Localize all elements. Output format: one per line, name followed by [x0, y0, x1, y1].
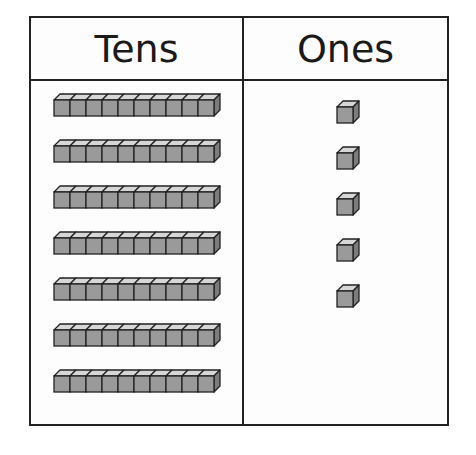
tens-rod	[53, 185, 221, 213]
tens-header: Tens	[31, 18, 242, 79]
tens-rod	[53, 323, 221, 351]
ones-cube	[336, 192, 360, 220]
tens-rod	[53, 231, 221, 259]
ones-header: Ones	[244, 18, 447, 79]
ones-cube	[336, 100, 360, 128]
tens-rod	[53, 369, 221, 397]
ones-cube	[336, 284, 360, 312]
tens-rod	[53, 139, 221, 167]
tens-rod	[53, 277, 221, 305]
header-divider	[31, 79, 447, 81]
place-value-chart: Tens Ones	[29, 16, 449, 426]
ones-cube	[336, 146, 360, 174]
column-divider	[242, 18, 244, 424]
tens-rod	[53, 93, 221, 121]
ones-cube	[336, 238, 360, 266]
